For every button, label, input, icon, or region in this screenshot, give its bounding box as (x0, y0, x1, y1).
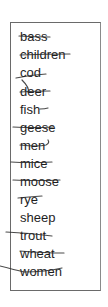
word-bass: bass (20, 29, 47, 44)
word-rye: rye (20, 192, 38, 207)
word-women: women (20, 264, 62, 279)
word-trout: trout (20, 228, 46, 243)
word-fish: fish (20, 102, 40, 117)
word-mice: mice (20, 156, 47, 171)
word-geese: geese (20, 120, 55, 135)
word-men: men (20, 138, 45, 153)
word-sheep: sheep (20, 210, 55, 225)
word-children: children (20, 47, 66, 62)
word-moose: moose (20, 174, 59, 189)
word-deer: deer (20, 84, 46, 99)
word-wheat: wheat (20, 246, 55, 261)
word-cod: cod (20, 65, 41, 80)
